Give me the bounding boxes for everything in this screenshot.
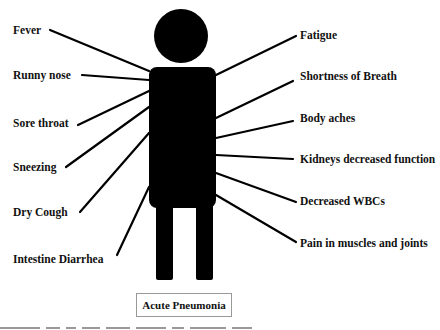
human-figure-icon (149, 9, 216, 280)
symptom-label-sneezing: Sneezing (13, 160, 56, 174)
symptom-label-runny-nose: Runny nose (13, 68, 71, 82)
cropped-caption-line (0, 324, 300, 330)
symptom-label-intestine-diarrhea: Intestine Diarrhea (13, 252, 103, 266)
symptom-diagram: Fever Runny nose Sore throat Sneezing Dr… (0, 0, 440, 330)
symptom-label-sore-throat: Sore throat (13, 116, 68, 130)
symptom-label-body-aches: Body aches (300, 111, 355, 125)
diagram-title-box: Acute Pneumonia (136, 293, 232, 317)
symptom-label-decreased-wbcs: Decreased WBCs (300, 194, 385, 208)
symptom-label-pain-in-muscles-and-joints: Pain in muscles and joints (300, 236, 428, 250)
symptom-label-dry-cough: Dry Cough (13, 205, 68, 219)
symptom-label-fatigue: Fatigue (300, 28, 337, 42)
symptom-label-fever: Fever (13, 23, 41, 37)
symptom-label-kidneys-decreased-function: Kidneys decreased function (300, 152, 435, 166)
symptom-label-shortness-of-breath: Shortness of Breath (300, 69, 397, 83)
left-connector-lines (50, 30, 149, 255)
right-connector-lines (216, 36, 296, 242)
